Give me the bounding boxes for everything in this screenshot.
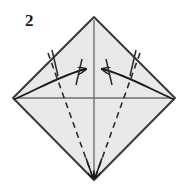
origami-diagram-canvas	[0, 0, 191, 190]
origami-figure: 2	[0, 0, 191, 190]
